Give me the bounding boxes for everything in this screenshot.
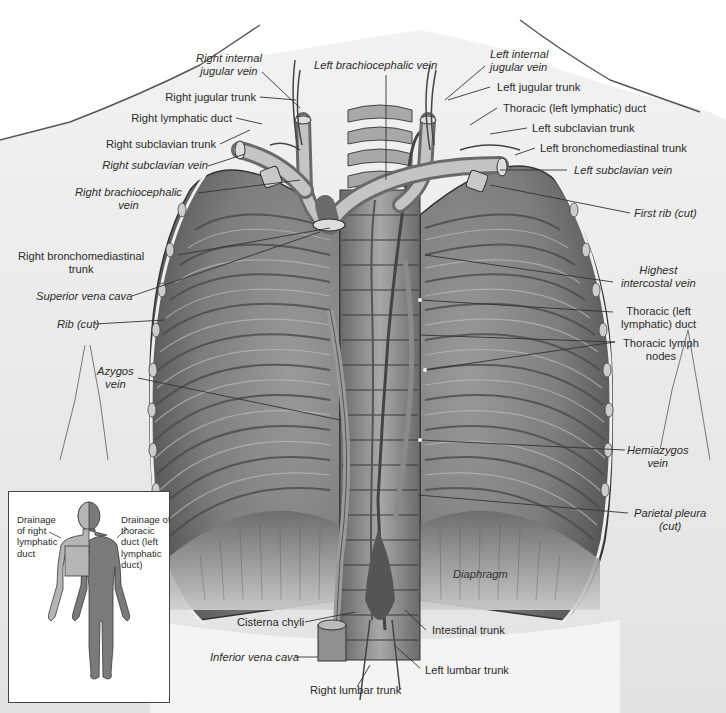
label-thoracic-duct-mid: Thoracic (left lymphatic) duct (621, 305, 696, 331)
label-left-jugular-trunk: Left jugular trunk (497, 81, 580, 94)
label-diaphragm: Diaphragm (453, 568, 508, 581)
inset-label-right-lymphatic-duct: Drainage of right lymphatic duct (17, 514, 58, 559)
label-hemiazygos-vein: Hemiazygos vein (627, 444, 689, 470)
label-right-subclavian-vein: Right subclavian vein (102, 159, 208, 172)
label-right-jugular-trunk: Right jugular trunk (165, 91, 256, 104)
label-left-bronchomediastinal-trunk: Left bronchomediastinal trunk (540, 142, 687, 155)
label-right-lymphatic-duct: Right lymphatic duct (131, 112, 232, 125)
label-left-lumbar-trunk: Left lumbar trunk (425, 664, 509, 677)
label-superior-vena-cava: Superior vena cava (36, 290, 132, 303)
drainage-inset: Drainage of right lymphatic duct Drainag… (8, 491, 170, 703)
label-left-subclavian-trunk: Left subclavian trunk (532, 122, 635, 135)
label-left-subclavian-vein: Left subclavian vein (574, 164, 672, 177)
label-first-rib-cut: First rib (cut) (634, 207, 697, 220)
label-rib-cut: Rib (cut) (57, 318, 99, 331)
label-thoracic-lymph-nodes: Thoracic lymph nodes (623, 337, 699, 363)
label-right-brachiocephalic-vein: Right brachiocephalic vein (75, 186, 182, 212)
label-parietal-pleura-cut: Parietal pleura (cut) (634, 507, 706, 533)
label-right-subclavian-trunk: Right subclavian trunk (106, 138, 216, 151)
label-azygos-vein: Azygos vein (97, 365, 134, 391)
label-thoracic-duct-top: Thoracic (left lymphatic) duct (503, 102, 646, 115)
label-right-bronchomediastinal-trunk: Right bronchomediastinal trunk (18, 250, 144, 276)
label-right-internal-jugular-vein: Right internal jugular vein (196, 52, 262, 78)
inset-label-thoracic-duct: Drainage of thoracic duct (left lymphati… (121, 514, 171, 570)
label-left-brachiocephalic-vein: Left brachiocephalic vein (314, 59, 437, 72)
label-intestinal-trunk: Intestinal trunk (432, 624, 505, 637)
label-left-internal-jugular-vein: Left internal jugular vein (490, 48, 548, 74)
label-inferior-vena-cava: Inferior vena cava (210, 651, 299, 664)
label-right-lumbar-trunk: Right lumbar trunk (310, 684, 401, 697)
label-cisterna-chyli: Cisterna chyli (237, 616, 304, 629)
label-highest-intercostal-vein: Highest intercostal vein (621, 264, 696, 290)
